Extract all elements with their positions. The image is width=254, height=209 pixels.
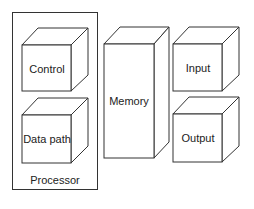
processor-label: Processor (30, 174, 80, 186)
memory-label: Memory (109, 95, 149, 107)
datapath-cube (22, 98, 88, 163)
input-label: Input (186, 62, 210, 74)
input-cube (173, 27, 239, 91)
control-cube (22, 28, 88, 91)
memory-block (104, 27, 169, 158)
output-cube (173, 97, 239, 162)
output-label: Output (181, 132, 214, 144)
datapath-label: Data path (23, 133, 71, 145)
control-label: Control (29, 63, 64, 75)
